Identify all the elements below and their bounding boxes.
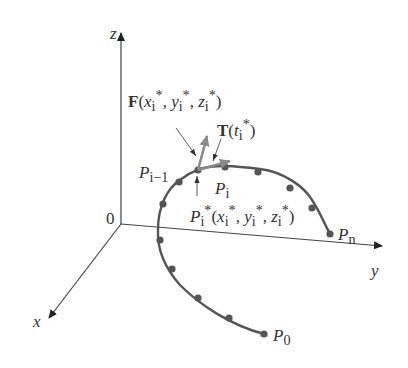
line-integral-diagram: z y x 0 F(xi*, yi*, zi*) T(ti*) Pi−1 Pi … [0, 0, 408, 368]
diagram-graphics [0, 0, 408, 368]
origin-label: 0 [106, 210, 115, 227]
p-i-label: Pi [215, 180, 229, 201]
p-0-label: P0 [273, 327, 290, 348]
y-axis-label: y [371, 262, 379, 279]
x-axis [49, 224, 121, 318]
force-label: F(xi*, yi*, zi*) [128, 88, 222, 113]
z-axis-label: z [110, 25, 117, 42]
force-vector [198, 136, 207, 170]
p-star-label: Pi*(xi*, yi*, zi*) [190, 203, 295, 228]
p-prev-label: Pi−1 [139, 164, 168, 185]
p-n-label: Pn [338, 226, 355, 247]
partition-points [156, 163, 333, 337]
curve-c [158, 166, 330, 334]
tangent-label: T(ti*) [217, 117, 255, 142]
x-axis-label: x [33, 313, 41, 330]
